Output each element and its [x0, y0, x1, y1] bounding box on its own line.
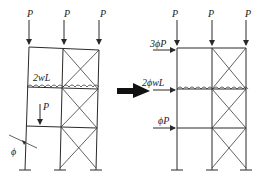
notional-load-label: 3ϕP: [149, 38, 166, 49]
imperfection-label: ϕ: [11, 146, 16, 157]
frame-diagram: P P P 2wL P ϕ: [0, 0, 260, 183]
leaning-column: [25, 47, 29, 170]
distributed-load-icon: [27, 85, 99, 87]
load-label: P: [26, 8, 33, 19]
left-top-loads: P P P: [26, 8, 106, 44]
load-label: P: [42, 101, 49, 112]
notional-load-label: ϕP: [158, 115, 169, 126]
load-label: P: [244, 8, 251, 19]
column: [96, 50, 99, 170]
left-frame: P P P 2wL P ϕ: [9, 8, 106, 170]
right-top-loads: P P P: [171, 8, 251, 45]
load-label: P: [63, 8, 70, 19]
load-label: P: [99, 8, 106, 19]
load-label: P: [207, 8, 214, 19]
right-frame: P P P 3ϕP 2ϕwL ϕP: [142, 8, 252, 170]
column: [60, 49, 63, 170]
load-label: P: [171, 8, 178, 19]
distributed-load-label: 2wL: [33, 72, 51, 83]
notional-load-label: 2ϕwL: [142, 77, 165, 88]
